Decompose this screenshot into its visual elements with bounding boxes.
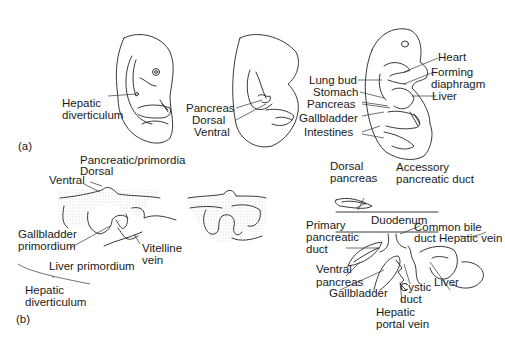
- label-gallbladder-primordium-2: primordium: [18, 240, 76, 253]
- label-diverticulum: diverticulum: [62, 109, 123, 122]
- label-common-bile-duct: duct: [414, 232, 436, 245]
- label-diaphragm: diaphragm: [431, 78, 485, 91]
- label-heart: Heart: [438, 51, 466, 64]
- label-hepatic: Hepatic: [62, 97, 101, 110]
- label-ventral-b: Ventral: [49, 174, 85, 187]
- label-pancreas-3: Pancreas: [307, 98, 356, 111]
- label-gallbladder-b: Gallbladder: [329, 287, 388, 300]
- label-dorsal: Dorsal: [192, 114, 225, 127]
- embryo-1-drawing: [108, 34, 173, 143]
- label-pancreatic-duct: pancreatic duct: [396, 173, 474, 186]
- label-dorsal-pancreas-2: pancreas: [330, 172, 377, 185]
- label-intestines: Intestines: [304, 126, 353, 139]
- label-cystic: Cystic: [400, 281, 431, 294]
- panel-b-middle-drawing: [188, 190, 267, 242]
- label-ventral: Ventral: [194, 126, 230, 139]
- label-vein: vein: [142, 254, 163, 267]
- panel-a-tag: (a): [18, 140, 32, 153]
- embryo-3-drawing: [358, 29, 438, 160]
- label-primary-duct: duct: [306, 243, 328, 256]
- label-liver-primordium: Liver primordium: [49, 260, 135, 273]
- label-accessory: Accessory: [396, 161, 449, 174]
- label-forming: Forming: [431, 66, 473, 79]
- label-primary-pancreatic: pancreatic: [306, 231, 359, 244]
- label-hepatic-portal: Hepatic: [376, 306, 415, 319]
- panel-b-tag: (b): [16, 313, 30, 326]
- label-diverticulum-b: diverticulum: [25, 296, 86, 309]
- label-hepatic-b: Hepatic: [25, 284, 64, 297]
- label-liver-a: Liver: [432, 90, 457, 103]
- label-dorsal-b: Dorsal: [80, 165, 113, 178]
- label-ventral-pancreas-1: Ventral: [316, 263, 352, 276]
- label-portal-vein: portal vein: [376, 318, 429, 331]
- label-stomach: Stomach: [313, 86, 358, 99]
- embryo-2-drawing: [233, 34, 299, 146]
- label-gallbladder-a: Gallbladder: [299, 112, 358, 125]
- label-gallbladder-primordium-1: Gallbladder: [18, 228, 77, 241]
- label-cystic-duct: duct: [400, 293, 422, 306]
- label-vitelline: Vitelline: [142, 242, 182, 255]
- label-primary: Primary: [306, 219, 346, 232]
- label-hepatic-vein: Hepatic vein: [439, 232, 502, 245]
- label-lung-bud: Lung bud: [309, 74, 357, 87]
- label-pancreas: Pancreas: [186, 102, 235, 115]
- label-dorsal-pancreas-1: Dorsal: [330, 160, 363, 173]
- label-liver-b: Liver: [434, 276, 459, 289]
